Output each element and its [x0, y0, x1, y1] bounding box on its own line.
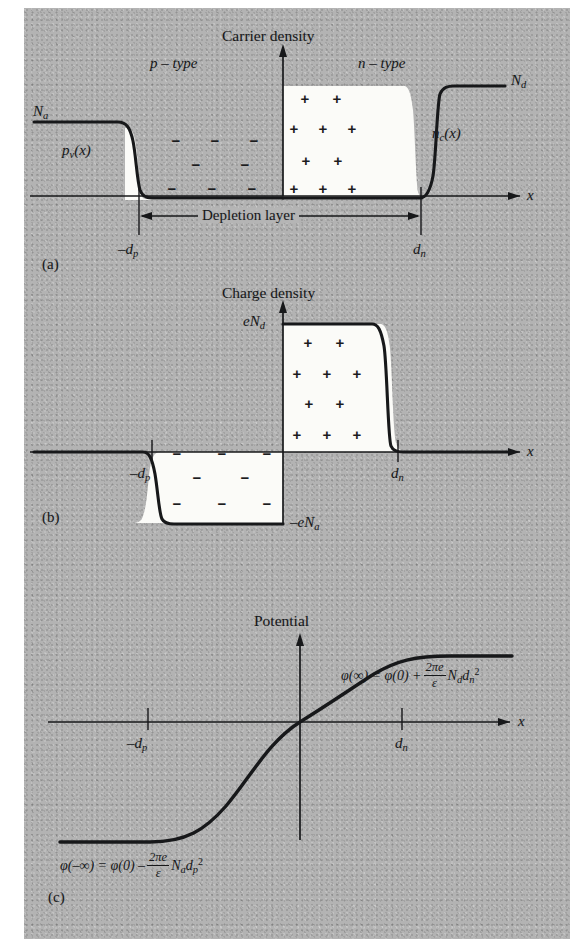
formula-upper-denominator: ε: [424, 675, 446, 691]
formula-phi-minus-infinity: φ(–∞) = φ(0) –2πeεNadp2: [60, 851, 203, 882]
formula-lower-fraction: 2πeε: [147, 850, 169, 881]
panel-c-graphics: [0, 0, 576, 951]
y-axis-arrow-c: [296, 633, 304, 646]
dn-sub-c: n: [403, 742, 408, 753]
formula-upper-dn-sup: 2: [474, 666, 479, 677]
formula-upper-Nd: N: [448, 668, 457, 683]
formula-lower-numerator: 2πe: [147, 850, 169, 865]
x-axis-arrow-c: [498, 718, 510, 726]
formula-upper-lhs: φ(∞) = φ(0) +: [341, 668, 422, 683]
x-axis-label-c: x: [518, 714, 525, 729]
formula-upper-numerator: 2πe: [424, 660, 446, 675]
dp-label-c: –dp: [127, 736, 147, 753]
dn-label-c: dn: [395, 736, 408, 753]
dp-sub-c: p: [142, 742, 147, 753]
formula-lower-denominator: ε: [147, 865, 169, 881]
panel-letter-c: (c): [48, 890, 65, 905]
formula-phi-infinity: φ(∞) = φ(0) +2πeεNddn2: [341, 661, 479, 692]
panel-c-axis-title: Potential: [254, 613, 309, 629]
formula-upper-fraction: 2πeε: [424, 660, 446, 691]
formula-lower-dp: d: [186, 858, 193, 873]
formula-lower-dp-sup: 2: [198, 856, 203, 867]
figure-root: Depletion layer Carrier density p – type…: [0, 0, 576, 951]
dn-base-c: d: [395, 735, 403, 751]
dp-base-c: –d: [127, 735, 142, 751]
formula-lower-lhs: φ(–∞) = φ(0) –: [60, 858, 145, 873]
